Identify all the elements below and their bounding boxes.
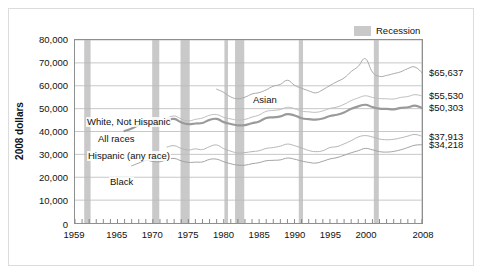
x-tick-label: 1985 xyxy=(242,230,276,239)
x-tick-label: 1970 xyxy=(135,230,169,239)
x-tick-label: 1975 xyxy=(171,230,205,239)
y-tick-label: 50,000 xyxy=(11,104,68,113)
plot-area xyxy=(74,39,423,224)
recession-legend-swatch xyxy=(354,26,371,36)
x-tick-label: 1965 xyxy=(100,230,134,239)
x-tick-label: 1995 xyxy=(313,230,347,239)
y-tick-label: 10,000 xyxy=(11,196,68,205)
series-label-asian: Asian xyxy=(252,95,278,105)
series-end-value: $65,637 xyxy=(429,68,463,77)
series-end-value: $50,303 xyxy=(429,103,463,112)
y-tick-label: 0 xyxy=(11,220,68,229)
series-label-black: Black xyxy=(109,177,134,187)
y-tick-label: 80,000 xyxy=(11,35,68,44)
x-tick-label: 2008 xyxy=(406,230,440,239)
series-end-value: $55,530 xyxy=(429,91,463,100)
x-tick-label: 2000 xyxy=(349,230,383,239)
x-tick-label: 1959 xyxy=(57,230,91,239)
chart-figure: Recession 2008 dollars 80,00070,00060,00… xyxy=(8,8,474,266)
chart-svg xyxy=(75,40,422,223)
x-tick-label: 1980 xyxy=(207,230,241,239)
series-line xyxy=(167,134,422,153)
series-label-all: All races xyxy=(97,134,135,144)
series-label-white: White, Not Hispanic xyxy=(86,117,171,127)
x-axis-tickmarks xyxy=(75,219,422,223)
chart-legend: Recession xyxy=(354,25,420,37)
y-tick-label: 60,000 xyxy=(11,81,68,90)
y-tick-label: 40,000 xyxy=(11,127,68,136)
y-tick-label: 20,000 xyxy=(11,173,68,182)
series-label-hispanic: Hispanic (any race) xyxy=(87,151,171,161)
recession-legend-label: Recession xyxy=(376,26,420,36)
y-tick-label: 30,000 xyxy=(11,150,68,159)
y-tick-label: 70,000 xyxy=(11,58,68,67)
series-line xyxy=(217,59,422,99)
x-tick-label: 1990 xyxy=(278,230,312,239)
series-end-value: $34,218 xyxy=(429,140,463,149)
